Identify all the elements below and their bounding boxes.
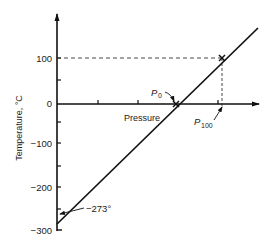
absolute-zero-annotation: −273° [60, 203, 111, 214]
y-tick-neg200: −200 [31, 182, 52, 193]
svg-text:100: 100 [201, 122, 213, 129]
x-axis [57, 100, 259, 104]
y-tick-neg300: −300 [31, 225, 52, 236]
p0-annotation: P 0 [151, 87, 174, 101]
data-line [57, 28, 258, 224]
svg-text:P: P [151, 87, 158, 98]
dashed-guides [57, 58, 222, 106]
y-tick-neg100: −100 [31, 138, 52, 149]
x-axis-label: Pressure [124, 113, 160, 123]
y-axis-label: Temperature, °C [14, 95, 24, 161]
svg-text:−273°: −273° [86, 203, 111, 214]
temperature-pressure-diagram: 100 0 −100 −200 −300 Temperature, °C Pre… [0, 0, 273, 243]
p100-annotation: P 100 [194, 107, 222, 129]
y-tick-100: 100 [36, 53, 52, 64]
y-tick-0: 0 [47, 98, 52, 109]
y-axis [57, 14, 62, 231]
svg-text:0: 0 [158, 92, 162, 99]
svg-text:P: P [194, 116, 201, 127]
